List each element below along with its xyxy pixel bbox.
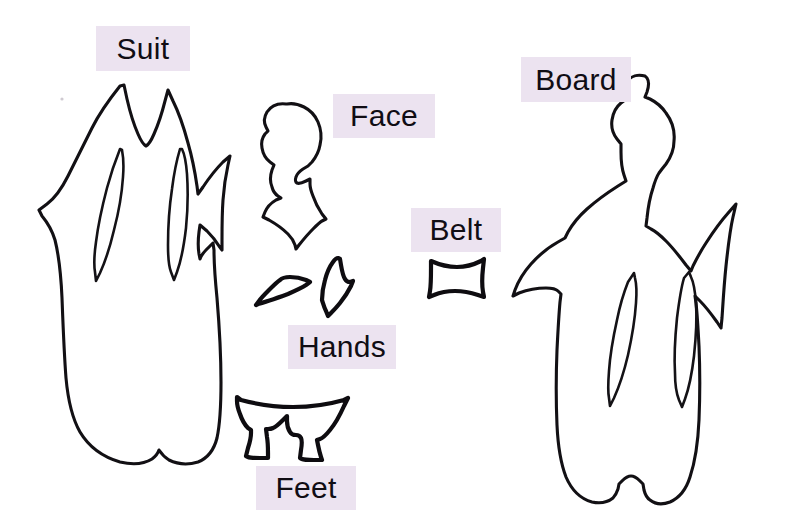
label-hands: Hands	[288, 325, 396, 369]
pattern-sheet: Suit Face Board Belt Hands Feet	[0, 0, 811, 530]
hands-pattern-piece	[256, 258, 353, 316]
label-feet-text: Feet	[275, 473, 336, 503]
label-suit: Suit	[96, 26, 190, 71]
belt-pattern-piece	[429, 259, 484, 297]
board-pattern-piece	[513, 75, 736, 504]
label-face-text: Face	[350, 101, 418, 131]
pattern-drawing	[0, 0, 811, 530]
label-belt-text: Belt	[430, 215, 483, 245]
suit-pattern-piece	[39, 85, 230, 464]
feet-pattern-piece	[237, 397, 348, 460]
label-feet: Feet	[256, 466, 356, 510]
paper-speck	[60, 97, 63, 100]
label-face: Face	[333, 94, 435, 138]
label-board-text: Board	[535, 65, 617, 95]
label-hands-text: Hands	[298, 332, 386, 362]
label-board: Board	[521, 57, 631, 102]
label-suit-text: Suit	[117, 34, 170, 64]
face-pattern-piece	[262, 104, 326, 249]
label-belt: Belt	[411, 208, 501, 252]
